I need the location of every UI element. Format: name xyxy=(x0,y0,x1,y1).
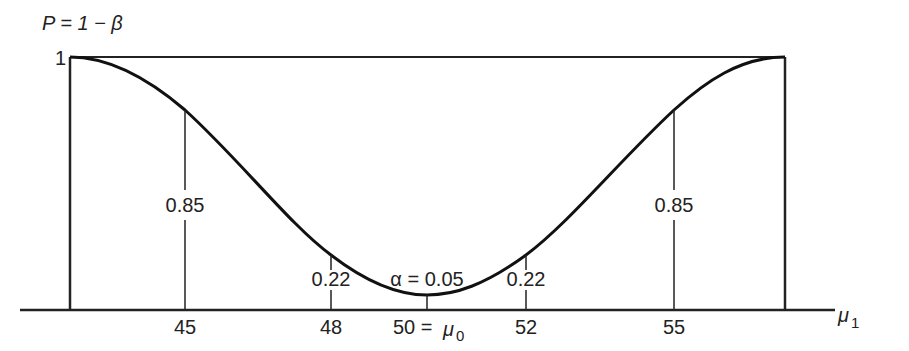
x-tick-55: 55 xyxy=(663,316,685,338)
x-tick-52: 52 xyxy=(515,316,537,338)
x-tick-45: 45 xyxy=(174,316,196,338)
y-axis-label: P = 1 − β xyxy=(42,12,123,34)
power-curve-chart: P = 1 − β 1 μ 1 45 48 50 = μ 0 52 55 0.8… xyxy=(0,0,909,351)
value-45: 0.85 xyxy=(166,194,205,216)
x-tick-50: 50 = xyxy=(393,316,432,338)
value-48: 0.22 xyxy=(312,268,351,290)
x-axis-label-sub: 1 xyxy=(851,314,859,331)
x-axis-label: μ xyxy=(837,304,849,326)
value-50-alpha: α = 0.05 xyxy=(390,268,463,290)
value-52: 0.22 xyxy=(507,268,546,290)
x-tick-48: 48 xyxy=(320,316,342,338)
power-curve xyxy=(70,57,785,295)
y-tick-1: 1 xyxy=(55,47,66,69)
x-tick-50-mu: μ xyxy=(442,318,454,340)
value-55: 0.85 xyxy=(655,194,694,216)
x-tick-50-sub: 0 xyxy=(456,327,464,344)
